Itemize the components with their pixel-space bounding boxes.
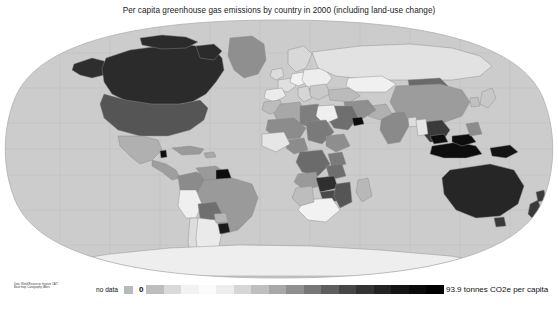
- legend-no-data-swatch: [124, 286, 133, 294]
- country-myanmar[interactable]: [416, 119, 428, 136]
- legend-no-data-label: no data: [96, 285, 118, 294]
- island-tasmania[interactable]: [494, 217, 506, 227]
- attribution-line-2: Base map: Cartography: Allers: [14, 286, 58, 289]
- legend-color-ramp: [146, 285, 444, 294]
- world-map[interactable]: [0, 18, 558, 280]
- legend-max-label: 93.9 tonnes CO2e per capita: [446, 285, 548, 294]
- region-korea[interactable]: [470, 97, 480, 107]
- page-title: Per capita greenhouse gas emissions by c…: [0, 5, 558, 16]
- country-belize[interactable]: [160, 150, 167, 158]
- island-hispaniola: [204, 152, 216, 158]
- attribution-text: Data: World Resources Institute CAIT Bas…: [14, 283, 58, 290]
- legend-min-label: 0: [139, 285, 143, 294]
- country-paraguay[interactable]: [214, 213, 228, 223]
- world-map-svg[interactable]: [0, 18, 558, 280]
- country-uruguay[interactable]: [218, 223, 230, 234]
- legend: Data: World Resources Institute CAIT Bas…: [0, 281, 558, 301]
- globe-body: [0, 18, 558, 280]
- map-figure: Per capita greenhouse gas emissions by c…: [0, 0, 558, 309]
